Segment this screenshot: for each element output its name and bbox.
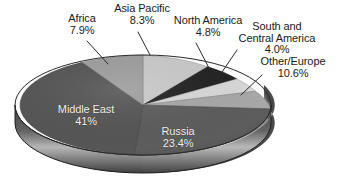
slice-label-africa-value: 7.9% [52,25,112,37]
slice-label-russia: Russia 23.4% [141,126,215,149]
slice-label-middle-east-name: Middle East [38,104,134,116]
pie-chart: Africa 7.9% Asia Pacific 8.3% North Amer… [0,0,339,187]
slice-label-other-europe-name: Other/Europe [248,56,338,68]
slice-label-russia-value: 23.4% [141,138,215,150]
slice-label-south-central-america: South and Central America 4.0% [228,21,326,56]
slice-label-africa: Africa 7.9% [52,13,112,36]
slice-label-other-europe-value: 10.6% [248,68,338,80]
slice-label-other-europe: Other/Europe 10.6% [248,56,338,79]
leader-line-asia-pacific [138,32,150,55]
slice-label-middle-east: Middle East 41% [38,104,134,127]
slice-label-africa-name: Africa [52,13,112,25]
slice-label-russia-name: Russia [141,126,215,138]
slice-label-south-central-america-name-line1: South and [228,21,326,33]
slice-label-asia-pacific-name: Asia Pacific [104,3,180,15]
slice-label-middle-east-value: 41% [38,116,134,128]
